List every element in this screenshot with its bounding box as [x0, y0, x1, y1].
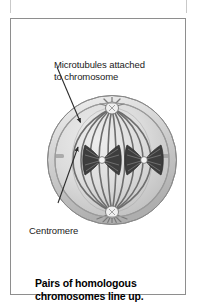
label-microtubules-attached-to-chromosome: Microtubules attached to chromosome: [54, 59, 174, 82]
label-centromere: Centromere: [29, 225, 109, 237]
centromere-right: [141, 157, 148, 164]
figure-caption: Pairs of homologous chromosomes line up.: [35, 277, 185, 303]
page-rule-mark-right: [186, 0, 187, 13]
page-rule-mark-left: [10, 0, 11, 13]
cell-diagram: [41, 95, 183, 225]
centromere-left: [99, 157, 106, 164]
figure-panel: Microtubules attached to chromosome Cent…: [10, 18, 186, 295]
